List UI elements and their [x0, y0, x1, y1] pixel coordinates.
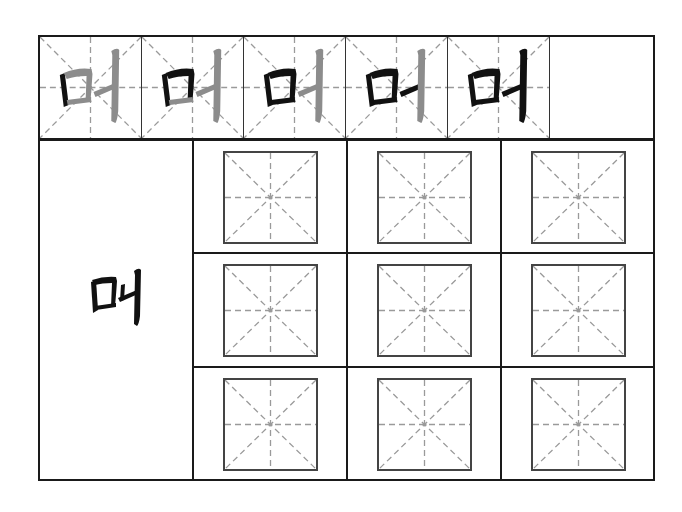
- stroke-step-glyph: [142, 37, 243, 138]
- guide-lines: [379, 266, 470, 355]
- practice-box[interactable]: [223, 151, 318, 244]
- stroke-step-glyph: [244, 37, 345, 138]
- stroke-step-glyph: [346, 37, 447, 138]
- stroke-order-cell: [448, 37, 550, 138]
- practice-box[interactable]: [531, 378, 626, 471]
- stroke-step-glyph: [448, 37, 549, 138]
- divider-row-1: [193, 252, 655, 254]
- guide-lines: [379, 380, 470, 469]
- stroke-order-cell: [244, 37, 346, 138]
- practice-box[interactable]: [223, 378, 318, 471]
- divider-row-2: [193, 366, 655, 368]
- guide-lines: [533, 266, 624, 355]
- divider-col-2: [500, 139, 502, 481]
- stroke-order-cell: [346, 37, 448, 138]
- guide-lines: [225, 380, 316, 469]
- divider-col-1: [346, 139, 348, 481]
- practice-box[interactable]: [223, 264, 318, 357]
- practice-box[interactable]: [531, 151, 626, 244]
- practice-box[interactable]: [377, 264, 472, 357]
- stroke-order-cell: [142, 37, 244, 138]
- stroke-order-cell: [40, 37, 142, 138]
- stroke-step-glyph: [40, 37, 141, 138]
- guide-lines: [225, 153, 316, 242]
- practice-box[interactable]: [377, 151, 472, 244]
- guide-lines: [379, 153, 470, 242]
- practice-box[interactable]: [531, 264, 626, 357]
- model-character: [40, 140, 193, 479]
- guide-lines: [533, 153, 624, 242]
- guide-lines: [533, 380, 624, 469]
- model-character-glyph: [40, 140, 193, 479]
- practice-box[interactable]: [377, 378, 472, 471]
- guide-lines: [225, 266, 316, 355]
